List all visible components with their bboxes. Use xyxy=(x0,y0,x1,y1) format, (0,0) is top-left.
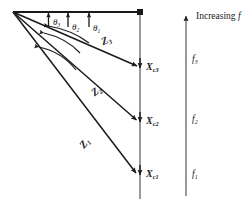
frequency-label-f2: f2 xyxy=(192,115,198,125)
corner-node xyxy=(137,9,143,15)
vector-ray-z1 xyxy=(13,12,136,173)
frequency-label-f3: f3 xyxy=(192,55,198,65)
point-label-xc1: Xc1 xyxy=(146,169,159,179)
angle-label-theta3: θ3 xyxy=(53,18,60,27)
angle-arc-theta1 xyxy=(49,26,90,43)
point-label-xc3: Xc3 xyxy=(146,62,159,72)
phasor-angle-diagram: θ3 θ2 θ1 Z3 Z2 Z1 Xc3 Xc2 Xc1 Increasing… xyxy=(0,0,248,201)
angle-label-theta2: θ2 xyxy=(72,23,79,32)
angle-label-theta1: θ1 xyxy=(93,24,100,33)
frequency-label-f1: f1 xyxy=(192,170,198,180)
point-label-xc2: Xc2 xyxy=(146,116,159,126)
diagram-canvas xyxy=(0,0,248,201)
increasing-frequency-caption: Increasing f xyxy=(196,12,241,22)
vector-ray-z3 xyxy=(13,12,137,66)
